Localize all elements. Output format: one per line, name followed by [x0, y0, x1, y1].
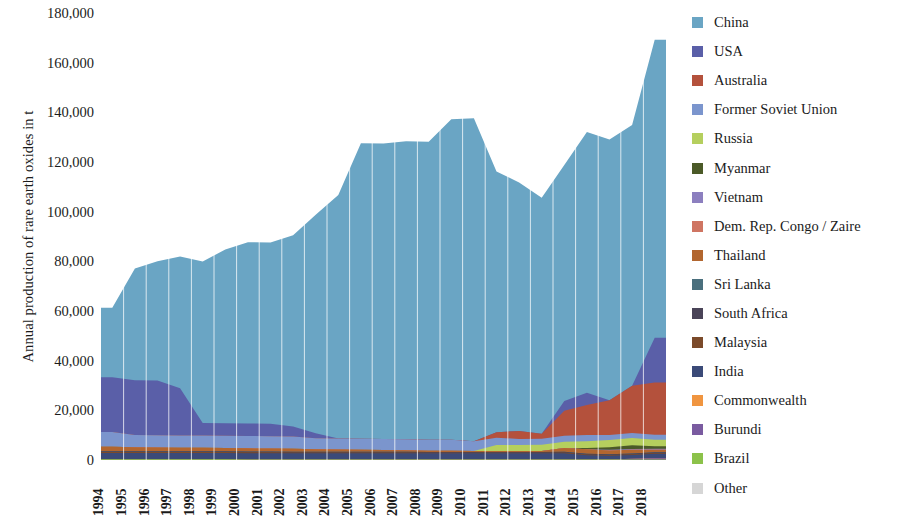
x-axis-tick-label: 1998: [183, 462, 197, 516]
legend-item[interactable]: Former Soviet Union: [692, 95, 917, 124]
legend-swatch-icon: [692, 133, 703, 144]
legend-swatch-icon: [692, 366, 703, 377]
legend-item-label: Russia: [714, 131, 753, 146]
legend-swatch-icon: [692, 279, 703, 290]
x-axis-tick-label: 2009: [431, 462, 445, 516]
legend-item[interactable]: Burundi: [692, 415, 917, 444]
y-axis-tick-label: 100,000: [38, 205, 94, 219]
x-axis-tick-label: 2010: [454, 462, 468, 516]
y-axis-tick-labels: 180,000160,000140,000120,000100,00080,00…: [38, 0, 94, 516]
chart-legend: ChinaUSAAustraliaFormer Soviet UnionRuss…: [692, 8, 917, 513]
x-axis-tick-label: 2016: [590, 462, 604, 516]
y-axis-tick-label: 20,000: [38, 403, 94, 417]
y-axis-title: Annual production of rare earth oxides i…: [20, 27, 37, 447]
legend-item-label: Dem. Rep. Congo / Zaire: [714, 219, 861, 234]
legend-swatch-icon: [692, 17, 703, 28]
y-axis-tick-label: 60,000: [38, 304, 94, 318]
legend-swatch-icon: [692, 250, 703, 261]
x-axis-tick-label: 2018: [635, 462, 649, 516]
x-axis-tick-label: 2004: [318, 462, 332, 516]
legend-item[interactable]: Myanmar: [692, 153, 917, 182]
x-axis-tick-label: 2006: [364, 462, 378, 516]
legend-swatch-icon: [692, 337, 703, 348]
x-axis-tick-label: 1996: [138, 462, 152, 516]
x-axis-tick-label: 2015: [567, 462, 581, 516]
legend-swatch-icon: [692, 453, 703, 464]
stacked-area-plot: [101, 13, 666, 460]
y-axis-tick-label: 180,000: [38, 6, 94, 20]
legend-swatch-icon: [692, 192, 703, 203]
legend-item-label: Sri Lanka: [714, 277, 771, 292]
legend-item-label: Myanmar: [714, 161, 770, 176]
legend-item[interactable]: China: [692, 8, 917, 37]
y-axis-tick-label: 0: [38, 453, 94, 467]
legend-item-label: Burundi: [714, 422, 762, 437]
legend-item[interactable]: Malaysia: [692, 328, 917, 357]
x-axis-tick-label: 1995: [115, 462, 129, 516]
legend-item[interactable]: Vietnam: [692, 183, 917, 212]
x-axis-tick-label: 2013: [522, 462, 536, 516]
legend-swatch-icon: [692, 104, 703, 115]
legend-swatch-icon: [692, 395, 703, 406]
legend-swatch-icon: [692, 308, 703, 319]
legend-item-label: Vietnam: [714, 190, 763, 205]
legend-item-label: USA: [714, 44, 743, 59]
x-axis-tick-label: 2014: [544, 462, 558, 516]
legend-item[interactable]: Australia: [692, 66, 917, 95]
legend-item-label: Australia: [714, 73, 767, 88]
x-axis-tick-label: 2003: [296, 462, 310, 516]
legend-item[interactable]: Brazil: [692, 444, 917, 473]
legend-item[interactable]: Commonwealth: [692, 386, 917, 415]
x-axis-tick-label: 1997: [160, 462, 174, 516]
y-axis-tick-label: 120,000: [38, 155, 94, 169]
y-axis-tick-label: 40,000: [38, 354, 94, 368]
y-axis-tick-label: 80,000: [38, 254, 94, 268]
legend-swatch-icon: [692, 221, 703, 232]
legend-item-label: South Africa: [714, 306, 788, 321]
area-series-group: [101, 40, 666, 460]
legend-item-label: Commonwealth: [714, 393, 807, 408]
legend-item[interactable]: Russia: [692, 124, 917, 153]
legend-item-label: Former Soviet Union: [714, 102, 837, 117]
legend-item-label: Other: [714, 481, 747, 496]
legend-swatch-icon: [692, 424, 703, 435]
legend-item[interactable]: Sri Lanka: [692, 270, 917, 299]
legend-swatch-icon: [692, 46, 703, 57]
x-axis-tick-label: 2001: [251, 462, 265, 516]
y-axis-tick-label: 140,000: [38, 105, 94, 119]
x-axis-tick-label: 2002: [273, 462, 287, 516]
x-axis-tick-label: 1994: [92, 462, 106, 516]
x-axis-tick-label: 1999: [205, 462, 219, 516]
legend-item-label: Thailand: [714, 248, 766, 263]
legend-item-label: Malaysia: [714, 335, 767, 350]
plot-area: [101, 13, 666, 460]
y-axis-tick-label: 160,000: [38, 56, 94, 70]
legend-item[interactable]: Other: [692, 474, 917, 503]
x-axis-tick-labels: 1994199519961997199819992000200120022003…: [101, 462, 666, 516]
x-axis-tick-label: 2017: [612, 462, 626, 516]
x-axis-tick-label: 2012: [499, 462, 513, 516]
legend-item-label: Brazil: [714, 451, 749, 466]
legend-swatch-icon: [692, 163, 703, 174]
x-axis-tick-label: 2000: [228, 462, 242, 516]
legend-item-label: China: [714, 15, 749, 30]
legend-item-label: India: [714, 364, 744, 379]
legend-item[interactable]: Dem. Rep. Congo / Zaire: [692, 212, 917, 241]
x-axis-tick-label: 2007: [386, 462, 400, 516]
legend-item[interactable]: South Africa: [692, 299, 917, 328]
x-axis-tick-label: 2005: [341, 462, 355, 516]
legend-item[interactable]: USA: [692, 37, 917, 66]
legend-item[interactable]: India: [692, 357, 917, 386]
x-axis-tick-label: 2008: [409, 462, 423, 516]
x-axis-tick-label: 2011: [477, 462, 491, 516]
legend-swatch-icon: [692, 483, 703, 494]
chart-figure: Annual production of rare earth oxides i…: [0, 0, 917, 516]
legend-swatch-icon: [692, 75, 703, 86]
legend-item[interactable]: Thailand: [692, 241, 917, 270]
